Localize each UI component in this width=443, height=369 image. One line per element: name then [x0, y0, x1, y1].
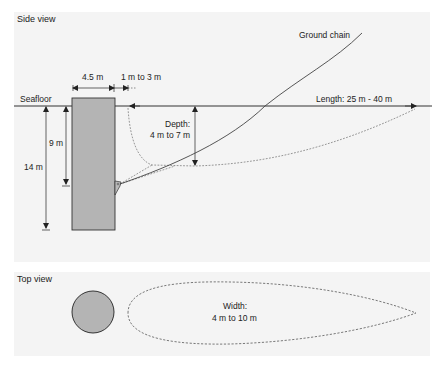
side-view-title: Side view [17, 15, 56, 24]
ground-chain-label: Ground chain [299, 31, 350, 40]
width-label-line2: 4 m to 10 m [212, 314, 257, 323]
depth-label-line2: 4 m to 7 m [150, 131, 190, 140]
pile [72, 98, 115, 230]
embed-9m-label: 9 m [49, 139, 63, 148]
top-view-title: Top view [17, 275, 52, 284]
pile-top-view [72, 291, 114, 333]
depth-label-line1: Depth: [165, 120, 190, 129]
pile-width-label: 4.5 m [82, 73, 103, 82]
gap-label: 1 m to 3 m [121, 73, 161, 82]
trench-top-view [128, 282, 416, 344]
ground-chain [120, 33, 362, 184]
length-label: Length: 25 m - 40 m [316, 95, 392, 104]
width-label-line1: Width: [223, 302, 247, 311]
seafloor-label: Seafloor [20, 95, 52, 104]
embed-14m-label: 14 m [24, 163, 43, 172]
